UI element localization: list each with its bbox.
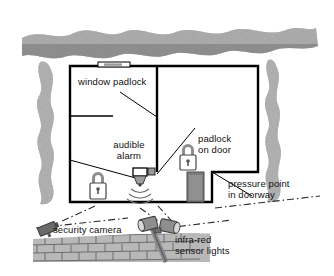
pressure-mat-icon (187, 172, 204, 202)
alarm-siren-icon (127, 168, 155, 204)
leader-audible-alarm-left (70, 160, 143, 180)
top-hedge (18, 20, 323, 60)
label-security-camera: security camera (53, 224, 122, 235)
label-infra-red-lights: infra-red sensor lights (175, 234, 230, 256)
leader-window-padlock (120, 92, 157, 117)
label-pressure-point: pressure point in doorway (228, 178, 290, 200)
left-hedge (30, 58, 60, 208)
label-audible-alarm: audible alarm (103, 139, 155, 161)
beam-camera-a (60, 206, 95, 222)
label-window-padlock: window padlock (78, 76, 146, 87)
security-diagram: window padlock audible alarm padlock on … (0, 0, 334, 276)
padlock-icon-left-room (90, 172, 106, 199)
label-padlock-on-door: padlock on door (198, 133, 231, 155)
padlock-on-door-icon (180, 144, 196, 170)
diagram-artwork (0, 0, 334, 276)
window-icon (98, 62, 130, 67)
